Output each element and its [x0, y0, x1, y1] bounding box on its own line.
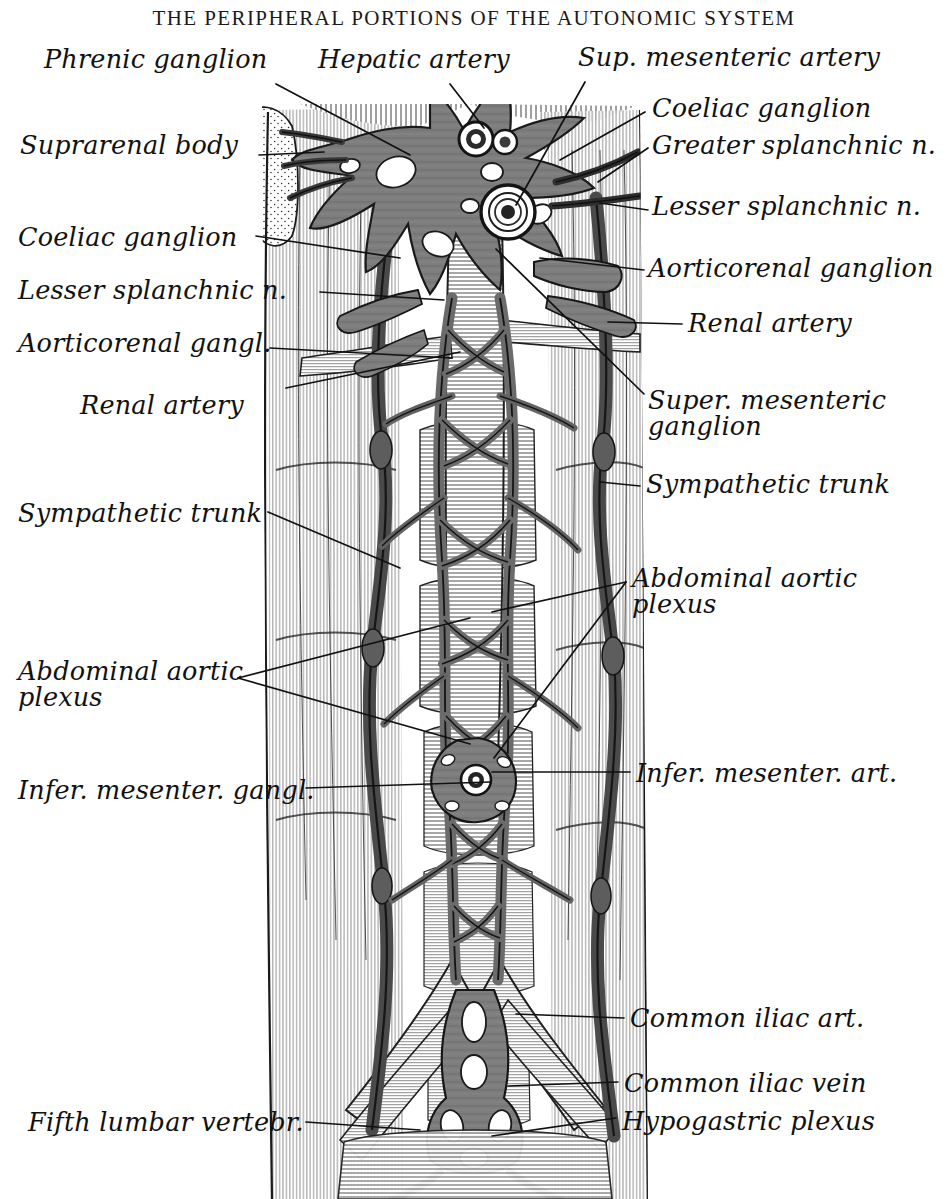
- label-abdominal-aortic-plexus-left: Abdominal aorticplexus: [18, 658, 243, 710]
- label-sympathetic-trunk-left: Sympathetic trunk: [18, 500, 262, 527]
- label-common-iliac-vein: Common iliac vein: [624, 1070, 867, 1097]
- label-phrenic-ganglion: Phrenic ganglion: [44, 46, 267, 73]
- label-suprarenal-body: Suprarenal body: [20, 132, 238, 159]
- leader-sympathetic-trunk-left: [268, 512, 400, 568]
- leader-sympathetic-trunk-right: [600, 482, 640, 486]
- label-line: plexus: [18, 684, 243, 710]
- leader-lesser-splanchnic-left: [320, 292, 444, 300]
- leader-coeliac-ganglion-right: [560, 112, 645, 160]
- label-renal-artery-right: Renal artery: [688, 310, 852, 337]
- label-super-mesenteric-ganglion: Super. mesentericganglion: [648, 387, 886, 439]
- label-infer-mesenter-art: Infer. mesenter. art.: [636, 760, 897, 787]
- label-coeliac-ganglion-right: Coeliac ganglion: [652, 95, 871, 122]
- leader-abdominal-aortic-left-1: [238, 618, 470, 678]
- leader-aorticorenal-ganglion-right: [540, 258, 644, 270]
- label-coeliac-ganglion-left: Coeliac ganglion: [18, 224, 237, 251]
- label-hepatic-artery: Hepatic artery: [318, 46, 510, 73]
- label-renal-artery-left: Renal artery: [80, 392, 244, 419]
- leader-fifth-lumbar-vertebr: [306, 1122, 420, 1130]
- label-line: Abdominal aortic: [18, 658, 243, 684]
- label-lesser-splanchnic-left: Lesser splanchnic n.: [18, 277, 287, 304]
- label-aorticorenal-ganglion-right: Aorticorenal ganglion: [648, 255, 934, 282]
- anatomical-plate: THE PERIPHERAL PORTIONS OF THE AUTONOMIC…: [0, 0, 948, 1199]
- label-infer-mesenter-gangl: Infer. mesenter. gangl.: [18, 777, 315, 804]
- label-hypogastric-plexus: Hypogastric plexus: [622, 1108, 875, 1135]
- leader-aorticorenal-gangl-left: [270, 348, 452, 358]
- leader-greater-splanchnic-n: [598, 148, 648, 182]
- page-title: THE PERIPHERAL PORTIONS OF THE AUTONOMIC…: [0, 6, 948, 31]
- leader-infer-mesenter-gangl: [306, 782, 490, 788]
- leader-renal-artery-right: [608, 322, 682, 324]
- leader-coeliac-ganglion-left: [256, 236, 400, 258]
- label-sympathetic-trunk-right: Sympathetic trunk: [646, 471, 890, 498]
- label-fifth-lumbar-vertebr: Fifth lumbar vertebr.: [28, 1109, 304, 1136]
- leader-super-mesenteric-ganglion: [496, 249, 644, 394]
- label-greater-splanchnic-n: Greater splanchnic n.: [652, 132, 936, 159]
- leader-hepatic-artery: [450, 84, 484, 128]
- label-sup-mesenteric-artery: Sup. mesenteric artery: [578, 44, 880, 71]
- leader-lesser-splanchnic-right: [600, 203, 648, 210]
- leader-suprarenal-body: [259, 152, 324, 155]
- label-lesser-splanchnic-right: Lesser splanchnic n.: [652, 193, 921, 220]
- leader-hypogastric-plexus: [492, 1118, 616, 1136]
- label-common-iliac-art: Common iliac art.: [630, 1005, 864, 1032]
- leader-sup-mesenteric-artery: [516, 82, 585, 205]
- leader-common-iliac-vein: [508, 1082, 618, 1086]
- leader-common-iliac-art: [516, 1014, 624, 1018]
- label-line: ganglion: [648, 413, 886, 439]
- leader-abdominal-aortic-left-2: [238, 678, 470, 744]
- label-aorticorenal-gangl-left: Aorticorenal gangl.: [18, 330, 272, 357]
- label-line: Abdominal aortic: [632, 565, 857, 591]
- label-line: Super. mesenteric: [648, 387, 886, 413]
- label-abdominal-aortic-plexus-right: Abdominal aorticplexus: [632, 565, 857, 617]
- leader-renal-artery-left: [286, 352, 460, 388]
- label-line: plexus: [632, 591, 857, 617]
- leader-abdominal-aortic-2: [494, 582, 626, 758]
- leader-phrenic-ganglion: [276, 84, 410, 155]
